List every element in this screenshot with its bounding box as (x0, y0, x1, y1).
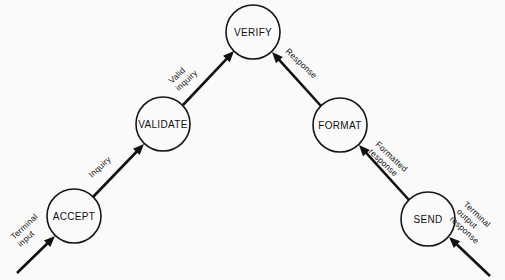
edge-label-text: Response (284, 46, 320, 80)
node-format[interactable]: FORMAT (313, 98, 367, 152)
node-label: FORMAT (318, 120, 362, 131)
edge-label-inquiry: Inquiry (87, 154, 114, 180)
edge-label-text: Inquiry (87, 154, 114, 180)
state-diagram: ACCEPTVALIDATEVERIFYFORMATSEND Terminali… (0, 0, 505, 280)
edge-line (93, 150, 138, 197)
edge-label-terminal-input: Terminalinput (9, 211, 47, 248)
nodes-layer: ACCEPTVALIDATEVERIFYFORMATSEND (47, 5, 455, 246)
node-validate[interactable]: VALIDATE (136, 97, 190, 151)
node-label: ACCEPT (53, 211, 96, 222)
edge-label-terminal-output-response: Terminaloutputresponse (448, 199, 495, 246)
diagram-canvas: ACCEPTVALIDATEVERIFYFORMATSEND Terminali… (0, 0, 505, 280)
node-label: VERIFY (234, 27, 272, 38)
edge-terminal-output-response (449, 237, 490, 276)
node-label: SEND (413, 214, 442, 225)
edge-line (456, 243, 490, 276)
node-label: VALIDATE (138, 119, 188, 130)
node-accept[interactable]: ACCEPT (47, 189, 101, 243)
node-verify[interactable]: VERIFY (226, 5, 280, 59)
node-send[interactable]: SEND (401, 192, 455, 246)
edge-label-valid-inquiry: Validinquiry (167, 60, 200, 93)
edge-label-response: Response (284, 46, 320, 80)
